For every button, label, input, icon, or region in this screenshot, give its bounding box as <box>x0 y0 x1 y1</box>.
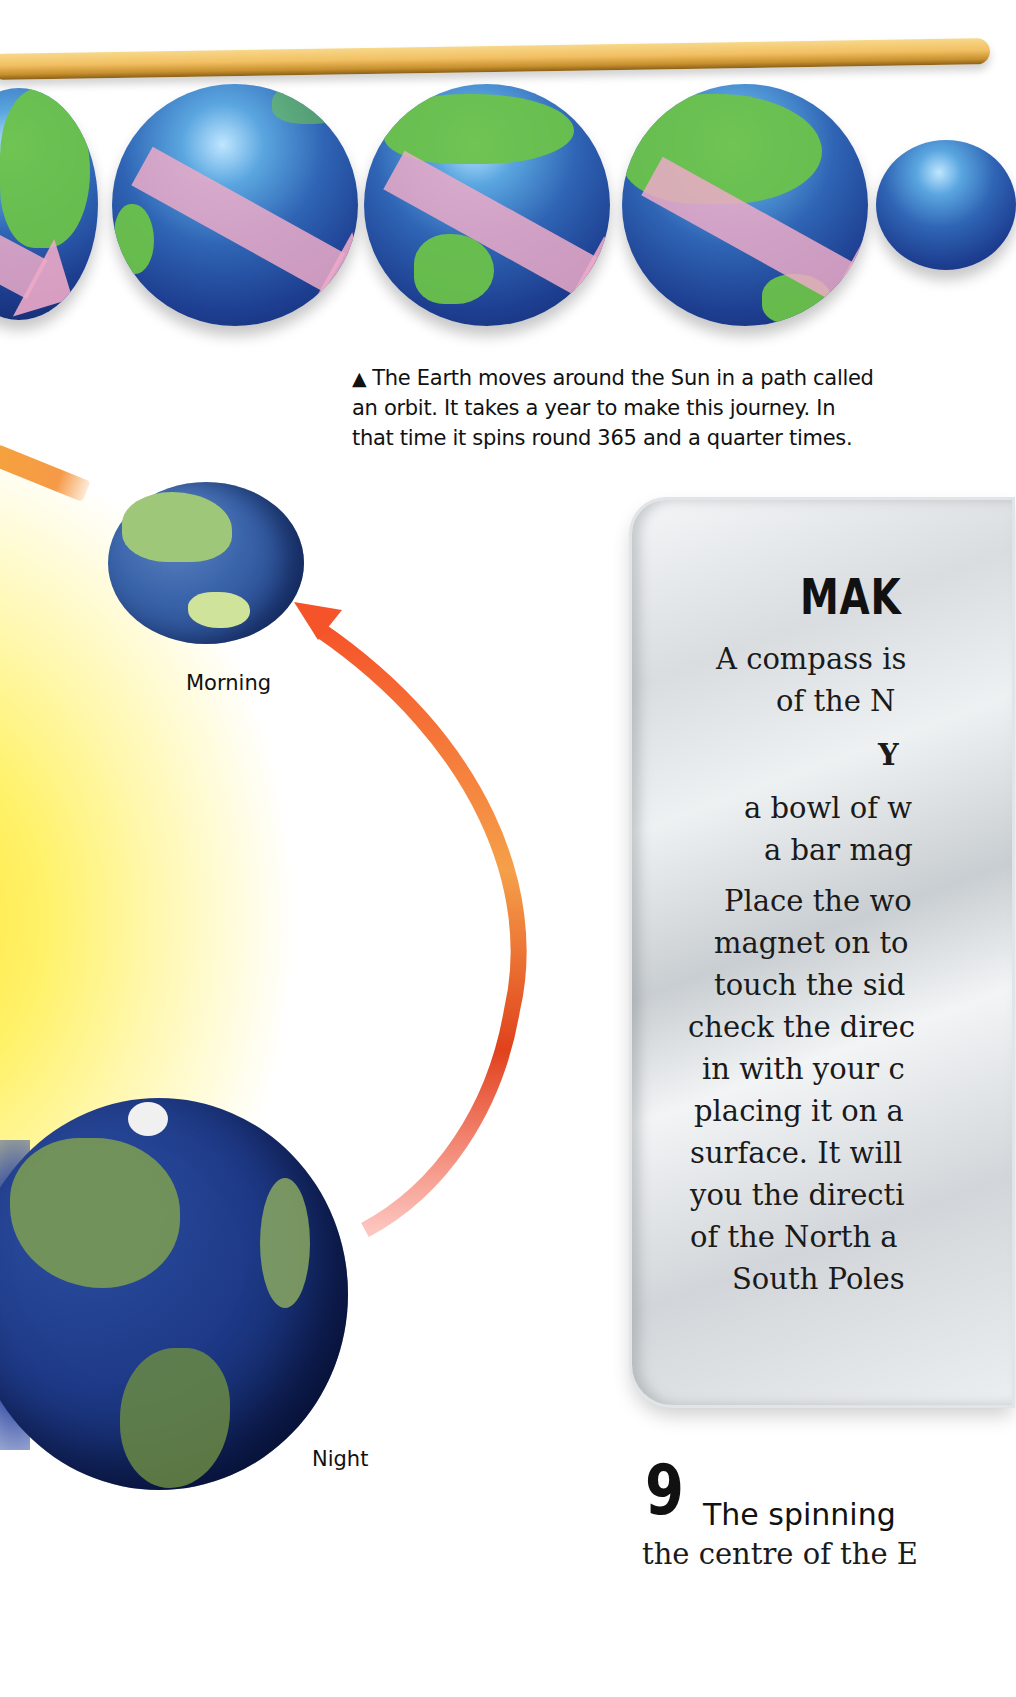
pink-spin-arrow-icon <box>131 147 345 292</box>
golden-rod-decoration <box>0 38 990 80</box>
africa-edge-landmass <box>260 1178 310 1308</box>
instruction-line-9: of the North a <box>690 1220 898 1254</box>
caption-line-2: an orbit. It takes a year to make this j… <box>352 393 912 423</box>
instruction-line-10: South Poles <box>732 1262 905 1296</box>
instruction-line-4: check the direc <box>688 1010 915 1044</box>
australia-landmass <box>188 592 250 628</box>
globe-3 <box>364 84 610 326</box>
instruction-line-8: you the directi <box>690 1178 904 1212</box>
material-2: a bar mag <box>764 833 913 867</box>
material-1: a bowl of w <box>744 791 912 825</box>
south-america-landmass <box>120 1348 230 1488</box>
morning-label: Morning <box>186 671 271 695</box>
globe-5 <box>876 140 1016 270</box>
north-america-landmass <box>10 1138 180 1288</box>
globe-4 <box>622 84 868 326</box>
instruction-line-7: surface. It will <box>690 1136 902 1170</box>
greenland-ice <box>128 1102 168 1136</box>
globe-2 <box>112 84 358 326</box>
orbit-caption: ▲The Earth moves around the Sun in a pat… <box>352 363 912 453</box>
asia-landmass <box>122 492 232 562</box>
globe-1 <box>0 88 98 320</box>
fact-body: the centre of the E <box>642 1537 918 1571</box>
instruction-line-5: in with your c <box>702 1052 905 1086</box>
instruction-line-2: magnet on to <box>714 926 909 960</box>
fact-heading: The spinning <box>703 1497 896 1532</box>
instruction-line-6: placing it on a <box>694 1094 904 1128</box>
instruction-line-3: touch the sid <box>714 968 905 1002</box>
instruction-line-1: Place the wo <box>724 884 912 918</box>
fact-number: 9 <box>645 1455 684 1525</box>
caption-line-1: The Earth moves around the Sun in a path… <box>372 366 873 390</box>
orbit-arrow-icon <box>280 590 600 1270</box>
caption-line-3: that time it spins round 365 and a quart… <box>352 423 912 453</box>
night-label: Night <box>312 1447 368 1471</box>
panel-title: MAK <box>800 568 902 626</box>
earth-morning-globe <box>108 482 304 644</box>
intro-line-1: A compass is <box>716 642 906 676</box>
up-triangle-icon: ▲ <box>352 367 366 389</box>
you-need-heading: Y <box>878 738 899 772</box>
intro-line-2: of the N <box>776 684 896 718</box>
